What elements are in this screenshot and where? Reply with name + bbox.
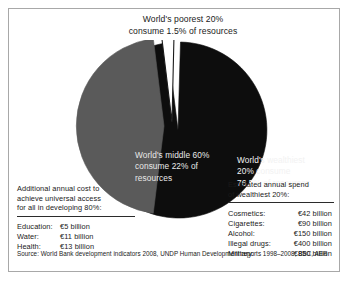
list-item: Alcohol: €150 billion bbox=[228, 229, 334, 239]
list-item: Education: €5 billion bbox=[17, 222, 135, 232]
panel-universal-access-cost: Additional annual cost to achieve univer… bbox=[17, 184, 135, 252]
panel-left-heading-line-1: Additional annual cost to bbox=[17, 184, 135, 194]
list-item: Water: €11 billion bbox=[17, 232, 135, 242]
panel-wealthiest-spend: Estimated annual spend of wealthiest 20%… bbox=[228, 180, 334, 259]
callout-line-1: World's poorest 20% bbox=[88, 14, 278, 26]
middle-slice-label: World's middle 60% consume 22% of resour… bbox=[135, 150, 227, 184]
spend-item-value: €400 billion bbox=[276, 239, 332, 249]
spend-item-value: €90 billion bbox=[276, 219, 332, 229]
source-note: Source: World Bank development indicator… bbox=[17, 250, 333, 258]
panel-universal-access-heading: Additional annual cost to achieve univer… bbox=[17, 184, 135, 213]
cost-item-label: Education: bbox=[17, 222, 60, 232]
list-item: Illegal drugs: €400 billion bbox=[228, 239, 334, 249]
list-item: Cosmetics: €42 billion bbox=[228, 209, 334, 219]
cost-item-label: Water: bbox=[17, 232, 60, 242]
middle-slice-label-line-1: World's middle 60% bbox=[135, 150, 227, 161]
spend-item-label: Cosmetics: bbox=[228, 209, 276, 219]
list-item: Cigarettes: €90 billion bbox=[228, 219, 334, 229]
panel-left-rows: Education: €5 billion Water: €11 billion… bbox=[17, 222, 135, 252]
panel-left-divider bbox=[17, 216, 135, 217]
callout-line-2: consume 1.5% of resources bbox=[88, 26, 278, 38]
spend-item-label: Cigarettes: bbox=[228, 219, 276, 229]
cost-item-value: €5 billion bbox=[60, 222, 120, 232]
panel-left-heading-line-2: achieve universal access bbox=[17, 194, 135, 204]
middle-slice-label-line-2: consume 22% of bbox=[135, 161, 227, 172]
spend-item-label: Illegal drugs: bbox=[228, 239, 276, 249]
poorest-slice-callout: World's poorest 20% consume 1.5% of reso… bbox=[88, 14, 278, 37]
spend-item-value: €42 billion bbox=[276, 209, 332, 219]
spend-item-label: Alcohol: bbox=[228, 229, 276, 239]
infographic-root: World's poorest 20% consume 1.5% of reso… bbox=[0, 0, 349, 281]
panel-left-heading-line-3: for all in developing 80%: bbox=[17, 203, 135, 213]
panel-right-heading-line-1: Estimated annual spend bbox=[228, 180, 334, 190]
wealthiest-slice-label-line-2: 20% consume bbox=[237, 166, 347, 177]
panel-wealthiest-spend-heading: Estimated annual spend of wealthiest 20%… bbox=[228, 180, 334, 199]
wealthiest-slice-label-line-1: World's wealthiest bbox=[237, 155, 347, 166]
cost-item-value: €11 billion bbox=[60, 232, 120, 242]
panel-right-heading-line-2: of wealthiest 20%: bbox=[228, 190, 334, 200]
panel-right-divider bbox=[228, 202, 334, 203]
middle-slice-label-line-3: resources bbox=[135, 173, 227, 184]
spend-item-value: €150 billion bbox=[276, 229, 332, 239]
